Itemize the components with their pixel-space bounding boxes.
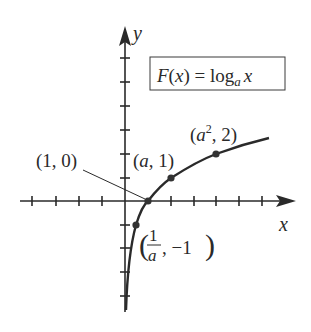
one-zero-leader-line bbox=[83, 170, 145, 199]
label-a-squared-two: (a2, 2) bbox=[190, 122, 237, 146]
svg-text:): ) bbox=[205, 228, 215, 262]
label-one-zero: (1, 0) bbox=[36, 150, 77, 172]
label-a-one: (a, 1) bbox=[133, 150, 174, 172]
y-axis-label: y bbox=[131, 22, 142, 45]
log-function-graph: y x F(x) = logax (1, 0) (a, 1) (a2, 2) (… bbox=[0, 0, 311, 332]
x-axis-label: x bbox=[278, 213, 288, 235]
point-a-squared-two bbox=[212, 150, 219, 157]
label-inv-a-neg-one: ( 1 a , −1 ) bbox=[139, 226, 215, 265]
formula-text: F(x) = logax bbox=[156, 65, 253, 89]
svg-text:1: 1 bbox=[149, 226, 158, 245]
point-one-zero bbox=[144, 197, 151, 204]
point-a-one bbox=[167, 174, 174, 181]
svg-text:a: a bbox=[148, 246, 157, 265]
svg-text:, −1: , −1 bbox=[162, 237, 192, 258]
x-axis bbox=[20, 196, 285, 206]
